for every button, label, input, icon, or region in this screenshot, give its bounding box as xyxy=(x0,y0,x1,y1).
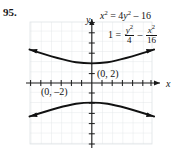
eq1-y-exponent: 2 xyxy=(128,9,131,16)
eq2-fraction-x: x2 16 xyxy=(146,24,157,45)
exercise-figure: 95. xyxy=(0,0,178,154)
eq1-x-exponent: 2 xyxy=(104,9,107,16)
y-axis-label: y xyxy=(86,14,90,25)
x-axis-label: x xyxy=(166,78,170,89)
equation-implicit: x2 = 4y2 – 16 xyxy=(100,9,151,21)
eq2-num-y: y2 xyxy=(125,24,134,35)
eq1-equals: = xyxy=(110,10,116,21)
eq2-minus: – xyxy=(137,29,142,40)
vertex-upper-label: (0, 2) xyxy=(97,68,119,79)
eq2-one: 1 xyxy=(108,29,113,40)
eq2-equals: = xyxy=(116,29,122,40)
eq1-constant: 16 xyxy=(141,10,151,21)
vertex-lower-label: (0, –2) xyxy=(41,86,68,97)
eq2-num-x: x2 xyxy=(146,24,157,35)
eq2-num-y-exp: 2 xyxy=(130,23,133,30)
equation-standard: 1 = y2 4 – x2 16 xyxy=(108,25,158,46)
eq2-fraction-y: y2 4 xyxy=(125,24,134,45)
eq1-minus: – xyxy=(134,10,139,21)
eq2-den-4: 4 xyxy=(125,35,134,45)
eq2-den-16: 16 xyxy=(146,35,157,45)
eq2-num-x-exp: 2 xyxy=(152,23,155,30)
